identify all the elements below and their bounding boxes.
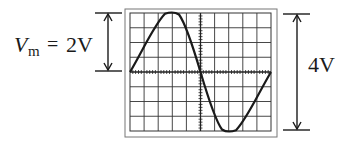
peak-to-peak-value: 4V xyxy=(308,52,335,77)
equals-sign: = xyxy=(47,33,58,55)
peak-voltage-label: V m = 2V xyxy=(14,32,93,59)
voltage-subscript: m xyxy=(28,43,40,59)
peak-to-peak-arrow xyxy=(283,14,310,130)
amplitude-arrow xyxy=(95,13,122,71)
peak-voltage-value: 2V xyxy=(66,32,93,57)
oscilloscope-screen xyxy=(125,9,277,137)
oscilloscope-diagram: V m = 2V xyxy=(0,0,348,143)
